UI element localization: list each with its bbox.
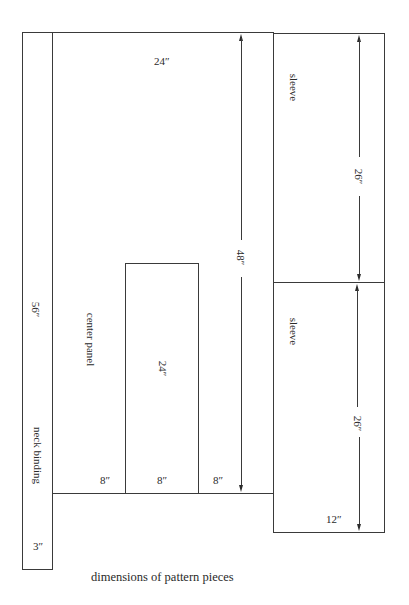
sleeve-top-arrow-upper-shaft — [359, 39, 360, 157]
sleeve-top-length-label: 26″ — [353, 169, 364, 185]
bottom-segment-middle-label: 8″ — [157, 475, 167, 486]
neck-opening-top-edge — [125, 263, 199, 264]
neck-binding-left-edge — [22, 32, 23, 570]
center-panel-top-width-label: 24″ — [154, 56, 170, 67]
neck-binding-label: neck binding — [32, 421, 43, 491]
sleeve-top-label: sleeve — [288, 74, 299, 101]
neck-opening-height-label: 24″ — [157, 361, 168, 377]
center-panel-top-edge — [52, 32, 273, 33]
sleeve-bottom-arrow-lower-shaft — [359, 437, 360, 526]
neck-opening-left-edge — [125, 263, 126, 493]
height-arrow-down-icon — [239, 485, 243, 492]
sleeve-divider — [273, 282, 385, 283]
height-arrow-lower-shaft — [241, 277, 242, 487]
sleeve-top-arrow-lower-shaft — [359, 196, 360, 276]
center-panel-bottom-edge — [52, 493, 273, 494]
neck-binding-right-edge — [52, 32, 53, 570]
neck-binding-length-label: 56″ — [30, 302, 41, 318]
neck-opening-right-edge — [198, 263, 199, 493]
sleeve-top-edge — [273, 33, 385, 34]
center-panel-height-label: 48″ — [235, 250, 246, 266]
sleeve-bottom-arrow-upper-shaft — [357, 290, 358, 407]
sleeve-top-arrow-down-icon — [357, 274, 361, 281]
sleeve-bottom-edge — [273, 532, 385, 533]
sleeve-bottom-length-label: 26″ — [352, 416, 363, 432]
bottom-segment-left-label: 8″ — [100, 475, 110, 486]
neck-binding-width-label: 3″ — [33, 541, 43, 552]
sleeve-bottom-arrow-down-icon — [357, 524, 361, 531]
bottom-segment-right-label: 8″ — [213, 475, 223, 486]
height-arrow-upper-shaft — [241, 38, 242, 240]
neck-binding-top-edge — [22, 32, 53, 33]
neck-binding-bottom-edge — [22, 569, 53, 570]
diagram-caption: dimensions of pattern pieces — [91, 570, 234, 585]
sleeve-bottom-label: sleeve — [288, 318, 299, 345]
center-panel-label: center panel — [85, 305, 96, 375]
sleeve-width-label: 12″ — [326, 514, 342, 525]
